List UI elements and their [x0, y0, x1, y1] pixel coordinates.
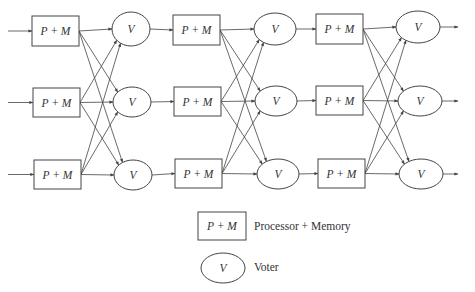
- processor-label: P + M: [183, 168, 215, 180]
- processor-to-voter-arrow: [221, 101, 255, 102]
- processor-label: P + M: [42, 169, 74, 181]
- processor-memory-node: P + M: [318, 159, 365, 188]
- voter-node: V: [257, 159, 299, 189]
- processor-to-voter-arrow: [81, 175, 114, 176]
- processor-label: P + M: [40, 25, 72, 37]
- legend-processor-text: Processor + Memory: [254, 220, 351, 233]
- voter-node: V: [399, 159, 443, 189]
- processor-memory-node: P + M: [33, 88, 80, 117]
- tmr-diagram: P + MP + MP + MP + MP + MP + MP + MP + M…: [0, 0, 475, 292]
- cross-vote-arrow: [363, 101, 405, 165]
- cross-vote-arrow: [363, 29, 404, 91]
- cross-vote-arrow: [365, 111, 404, 174]
- processor-label: P + M: [181, 24, 213, 36]
- legend-item-processor: P + M Processor + Memory: [198, 212, 351, 240]
- processor-to-voter-arrow: [363, 101, 398, 102]
- voter-to-processor-arrow: [297, 101, 316, 102]
- processor-label: P + M: [326, 168, 358, 180]
- voter-node: V: [254, 13, 296, 45]
- processor-to-voter-arrow: [363, 27, 396, 29]
- processor-memory-node: P + M: [32, 16, 79, 46]
- processor-to-voter-arrow: [365, 174, 399, 175]
- processor-memory-node: P + M: [316, 14, 363, 44]
- legend: P + M Processor + Memory V Voter: [198, 212, 351, 283]
- processor-memory-node: P + M: [175, 159, 222, 188]
- voter-to-processor-arrow: [151, 102, 174, 103]
- processor-memory-node: P + M: [173, 15, 220, 45]
- cross-vote-arrow: [220, 30, 260, 91]
- voter-node: V: [255, 86, 297, 116]
- processor-memory-node: P + M: [34, 160, 81, 189]
- cross-vote-arrow: [363, 38, 402, 101]
- voter-to-processor-arrow: [299, 174, 318, 175]
- cross-vote-arrow: [81, 112, 118, 175]
- voter-node: V: [398, 86, 442, 116]
- legend-processor-symbol-label: P + M: [206, 220, 238, 232]
- legend-voter-text: Voter: [254, 261, 279, 273]
- processor-to-voter-arrow: [80, 102, 113, 103]
- processor-to-voter-arrow: [222, 174, 257, 175]
- legend-item-voter: V Voter: [201, 253, 279, 283]
- processor-memory-node: P + M: [316, 86, 363, 115]
- processor-label: P + M: [324, 23, 356, 35]
- cross-vote-arrow: [222, 111, 260, 174]
- voter-node: V: [114, 160, 152, 190]
- voter-node: V: [113, 87, 151, 117]
- processor-memory-node: P + M: [174, 87, 221, 116]
- cross-vote-arrow: [79, 31, 118, 92]
- processor-label: P + M: [324, 95, 356, 107]
- processor-label: P + M: [182, 96, 214, 108]
- voter-node: V: [396, 11, 440, 43]
- processor-label: P + M: [41, 97, 73, 109]
- processor-to-voter-arrow: [79, 29, 112, 31]
- voter-node: V: [112, 12, 150, 46]
- voter-to-processor-arrow: [150, 29, 173, 30]
- voter-to-processor-arrow: [152, 174, 175, 176]
- processor-to-voter-arrow: [220, 29, 254, 30]
